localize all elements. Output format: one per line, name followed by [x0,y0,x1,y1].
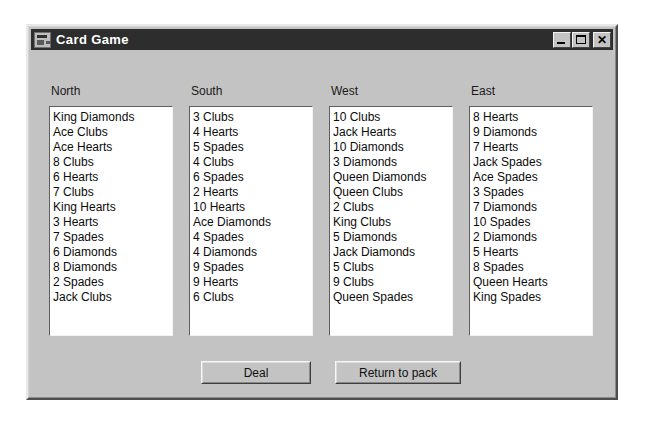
list-item[interactable]: 8 Clubs [53,155,172,170]
list-item[interactable]: 9 Spades [193,260,312,275]
card-list-south[interactable]: 3 Clubs4 Hearts5 Spades4 Clubs6 Spades2 … [189,106,313,336]
hand-panel-east: East 8 Hearts9 Diamonds7 HeartsJack Spad… [469,84,593,336]
close-button[interactable]: ✕ [593,32,611,48]
list-item[interactable]: Queen Hearts [473,275,592,290]
list-item[interactable]: Ace Clubs [53,125,172,140]
list-item[interactable]: 4 Diamonds [193,245,312,260]
list-item[interactable]: King Spades [473,290,592,305]
window-controls: ✕ [553,32,611,48]
return-to-pack-button-label: Return to pack [359,366,437,380]
hand-label-south: South [191,84,313,98]
list-item[interactable]: 4 Clubs [193,155,312,170]
hand-label-west: West [331,84,453,98]
card-list-east[interactable]: 8 Hearts9 Diamonds7 HeartsJack SpadesAce… [469,106,593,336]
maximize-button[interactable] [572,32,590,48]
list-item[interactable]: 4 Hearts [193,125,312,140]
list-item[interactable]: Ace Spades [473,170,592,185]
list-item[interactable]: 3 Spades [473,185,592,200]
card-list-north[interactable]: King DiamondsAce ClubsAce Hearts8 Clubs6… [49,106,173,336]
list-item[interactable]: Ace Hearts [53,140,172,155]
list-item[interactable]: 6 Clubs [193,290,312,305]
list-item[interactable]: 9 Diamonds [473,125,592,140]
list-item[interactable]: 2 Clubs [333,200,452,215]
window-title: Card Game [56,32,553,47]
list-item[interactable]: 4 Spades [193,230,312,245]
list-item[interactable]: 6 Diamonds [53,245,172,260]
list-item[interactable]: 2 Spades [53,275,172,290]
close-icon: ✕ [594,33,610,47]
list-item[interactable]: 8 Spades [473,260,592,275]
deal-button-label: Deal [244,366,269,380]
list-item[interactable]: 8 Hearts [473,110,592,125]
screen: Card Game ✕ North King DiamondsAce Clubs… [0,0,646,422]
hand-panel-south: South 3 Clubs4 Hearts5 Spades4 Clubs6 Sp… [189,84,313,336]
list-item[interactable]: 7 Spades [53,230,172,245]
title-bar[interactable]: Card Game ✕ [31,29,613,50]
form-window-icon [34,32,51,48]
list-item[interactable]: King Clubs [333,215,452,230]
list-item[interactable]: Queen Spades [333,290,452,305]
list-item[interactable]: 3 Hearts [53,215,172,230]
hand-panel-north: North King DiamondsAce ClubsAce Hearts8 … [49,84,173,336]
list-item[interactable]: 10 Hearts [193,200,312,215]
list-item[interactable]: 3 Diamonds [333,155,452,170]
list-item[interactable]: 3 Clubs [193,110,312,125]
return-to-pack-button[interactable]: Return to pack [335,361,461,384]
list-item[interactable]: King Diamonds [53,110,172,125]
list-item[interactable]: Jack Hearts [333,125,452,140]
list-item[interactable]: 10 Diamonds [333,140,452,155]
card-list-west[interactable]: 10 ClubsJack Hearts10 Diamonds3 Diamonds… [329,106,453,336]
minimize-button[interactable] [553,32,571,48]
list-item[interactable]: 9 Clubs [333,275,452,290]
hand-label-east: East [471,84,593,98]
list-item[interactable]: 2 Hearts [193,185,312,200]
list-item[interactable]: 7 Clubs [53,185,172,200]
list-item[interactable]: Jack Diamonds [333,245,452,260]
list-item[interactable]: 6 Spades [193,170,312,185]
list-item[interactable]: 5 Clubs [333,260,452,275]
list-item[interactable]: 7 Diamonds [473,200,592,215]
list-item[interactable]: 7 Hearts [473,140,592,155]
list-item[interactable]: 2 Diamonds [473,230,592,245]
list-item[interactable]: 9 Hearts [193,275,312,290]
list-item[interactable]: Jack Clubs [53,290,172,305]
client-area: North King DiamondsAce ClubsAce Hearts8 … [31,52,613,395]
hand-label-north: North [51,84,173,98]
minimize-icon [557,42,565,44]
maximize-icon [576,35,586,44]
list-item[interactable]: Ace Diamonds [193,215,312,230]
list-item[interactable]: Queen Clubs [333,185,452,200]
list-item[interactable]: Queen Diamonds [333,170,452,185]
deal-button[interactable]: Deal [201,361,311,384]
list-item[interactable]: 10 Spades [473,215,592,230]
list-item[interactable]: 5 Hearts [473,245,592,260]
card-game-window: Card Game ✕ North King DiamondsAce Clubs… [26,24,618,400]
hand-panel-west: West 10 ClubsJack Hearts10 Diamonds3 Dia… [329,84,453,336]
list-item[interactable]: 10 Clubs [333,110,452,125]
list-item[interactable]: 5 Diamonds [333,230,452,245]
list-item[interactable]: 5 Spades [193,140,312,155]
list-item[interactable]: 6 Hearts [53,170,172,185]
list-item[interactable]: Jack Spades [473,155,592,170]
list-item[interactable]: 8 Diamonds [53,260,172,275]
list-item[interactable]: King Hearts [53,200,172,215]
